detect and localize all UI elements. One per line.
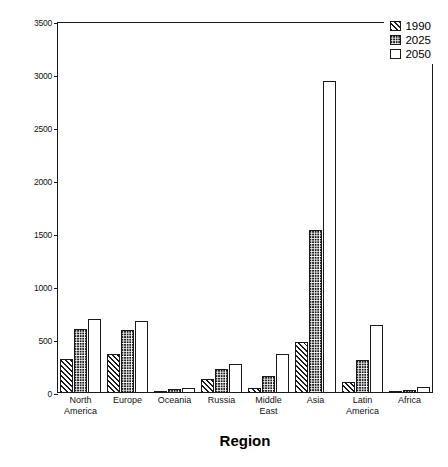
bar-group — [151, 22, 198, 393]
x-axis-tick-label: Europe — [104, 395, 151, 417]
bar-2050-russia — [229, 364, 242, 393]
x-axis-tick-label-line: America — [339, 406, 386, 417]
x-axis-tick-label-line: Oceania — [151, 395, 198, 406]
x-axis-tick-label-line: Europe — [104, 395, 151, 406]
x-axis-tick-label: NorthAmerica — [57, 395, 104, 417]
bar-2050-asia — [323, 81, 336, 393]
bar-group — [104, 22, 151, 393]
bar-2050-north-america — [88, 319, 101, 393]
x-axis-tick-label: Asia — [292, 395, 339, 417]
x-axis-tick-label: Oceania — [151, 395, 198, 417]
bar-1990-latin-america — [342, 382, 355, 393]
x-axis-tick-labels: NorthAmericaEuropeOceaniaRussiaMiddleEas… — [57, 395, 433, 417]
bar-1990-oceania — [154, 391, 167, 393]
x-axis-tick-label: Africa — [386, 395, 433, 417]
bar-1990-europe — [107, 354, 120, 393]
legend-item-2050: 2050 — [390, 48, 431, 60]
bar-2025-oceania — [168, 389, 181, 393]
x-axis-tick-label-line: North — [57, 395, 104, 406]
legend-swatch-2025 — [390, 35, 401, 45]
x-axis-tick-label-line: Asia — [292, 395, 339, 406]
legend-label-1990: 1990 — [405, 20, 431, 32]
bar-2025-asia — [309, 230, 322, 393]
x-axis-tick-label-line: Russia — [198, 395, 245, 406]
legend-swatch-1990 — [390, 21, 401, 31]
chart-legend: 199020252050 — [384, 17, 438, 64]
bar-group — [57, 22, 104, 393]
bar-2025-europe — [121, 330, 134, 393]
x-axis-tick-label-line: East — [245, 406, 292, 417]
legend-item-1990: 1990 — [390, 20, 431, 32]
bar-group — [386, 22, 433, 393]
bar-2025-north-america — [74, 329, 87, 393]
legend-label-2050: 2050 — [405, 48, 431, 60]
bar-group — [245, 22, 292, 393]
bar-2050-middle-east — [276, 354, 289, 393]
x-axis-tick-label-line: America — [57, 406, 104, 417]
x-axis-tick-label-line: Africa — [386, 395, 433, 406]
bar-group — [198, 22, 245, 393]
x-axis-tick-label: Russia — [198, 395, 245, 417]
x-axis-tick-label: LatinAmerica — [339, 395, 386, 417]
x-axis-tick-label-line: Middle — [245, 395, 292, 406]
bar-2025-russia — [215, 369, 228, 393]
legend-label-2025: 2025 — [405, 34, 431, 46]
bar-1990-russia — [201, 379, 214, 393]
bar-groups — [57, 22, 433, 393]
bar-2025-africa — [403, 390, 416, 393]
x-axis-tick-label-line: Latin — [339, 395, 386, 406]
x-axis-tick-label: MiddleEast — [245, 395, 292, 417]
bar-2050-africa — [417, 387, 430, 393]
bar-1990-north-america — [60, 359, 73, 393]
bar-2025-latin-america — [356, 360, 369, 393]
legend-swatch-2050 — [390, 49, 401, 59]
legend-item-2025: 2025 — [390, 34, 431, 46]
bar-1990-africa — [389, 391, 402, 393]
bar-2050-oceania — [182, 388, 195, 393]
bar-group — [292, 22, 339, 393]
bar-2050-europe — [135, 321, 148, 393]
bar-1990-asia — [295, 342, 308, 393]
bar-1990-middle-east — [248, 388, 261, 393]
bar-2050-latin-america — [370, 325, 383, 393]
hip-fractures-bar-chart: Hip Fractures, in thousands 050010001500… — [0, 0, 448, 467]
bar-group — [339, 22, 386, 393]
bar-2025-middle-east — [262, 376, 275, 393]
x-axis-title: Region — [57, 432, 433, 449]
